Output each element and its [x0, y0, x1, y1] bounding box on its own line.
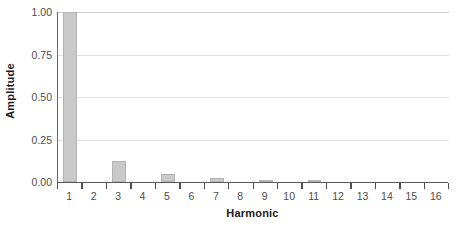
x-tick-mark: [155, 183, 156, 189]
y-axis-title: Amplitude: [2, 0, 18, 182]
x-tick-label: 3: [115, 190, 121, 202]
x-axis-ticks: [57, 183, 448, 190]
x-tick-label: 14: [381, 190, 393, 202]
x-tick-mark: [424, 183, 425, 189]
bar-series: [58, 12, 449, 182]
x-tick-label: 16: [430, 190, 442, 202]
x-tick-mark: [57, 183, 58, 189]
x-tick-label: 4: [140, 190, 146, 202]
x-tick-mark: [228, 183, 229, 189]
x-tick-label: 7: [213, 190, 219, 202]
x-tick-label: 6: [188, 190, 194, 202]
x-tick-mark: [375, 183, 376, 189]
x-tick-mark: [448, 183, 449, 189]
x-tick-label: 13: [357, 190, 369, 202]
x-tick-label: 12: [332, 190, 344, 202]
y-tick-label: 0.00: [18, 176, 52, 188]
x-tick-mark: [106, 183, 107, 189]
y-tick-label: 0.75: [18, 49, 52, 61]
x-tick-mark: [350, 183, 351, 189]
x-tick-mark: [301, 183, 302, 189]
plot-area: [57, 12, 449, 182]
x-tick-mark: [179, 183, 180, 189]
x-tick-label: 15: [406, 190, 418, 202]
x-tick-mark: [326, 183, 327, 189]
x-tick-label: 2: [91, 190, 97, 202]
x-tick-label: 5: [164, 190, 170, 202]
x-tick-label: 11: [308, 190, 319, 202]
y-tick-label: 1.00: [18, 6, 52, 18]
x-tick-label: 10: [283, 190, 295, 202]
harmonic-amplitude-chart: Amplitude 0.000.250.500.751.00 123456789…: [0, 0, 464, 232]
x-axis-tick-labels: 12345678910111213141516: [57, 190, 448, 206]
x-axis-title: Harmonic: [57, 207, 448, 219]
bar: [112, 161, 126, 182]
x-tick-label: 1: [66, 190, 72, 202]
bar: [63, 12, 77, 182]
x-tick-mark: [253, 183, 254, 189]
y-axis-tick-labels: 0.000.250.500.751.00: [18, 0, 52, 232]
x-tick-mark: [277, 183, 278, 189]
y-tick-label: 0.25: [18, 134, 52, 146]
x-tick-mark: [130, 183, 131, 189]
x-tick-mark: [81, 183, 82, 189]
x-tick-mark: [399, 183, 400, 189]
x-tick-mark: [204, 183, 205, 189]
x-tick-label: 8: [237, 190, 243, 202]
y-tick-label: 0.50: [18, 91, 52, 103]
x-tick-label: 9: [262, 190, 268, 202]
